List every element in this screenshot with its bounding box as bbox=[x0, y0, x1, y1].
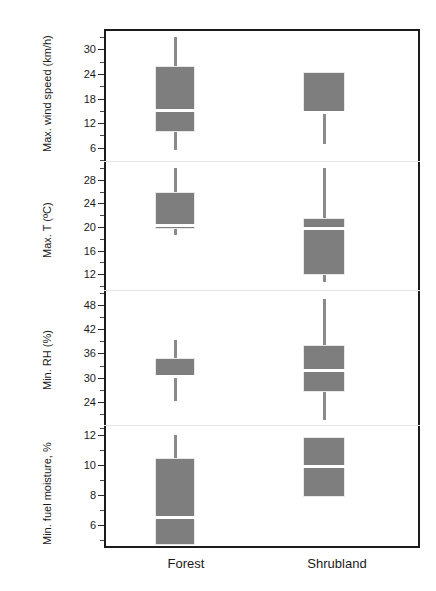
y-axis-tick-label: 24 bbox=[84, 69, 96, 80]
y-axis-tick-label: 30 bbox=[84, 44, 96, 55]
y-axis-title-panel-2: Max. T (ºC) bbox=[42, 202, 53, 258]
y-axis-tick-label: 18 bbox=[84, 94, 96, 105]
y-axis-tick-label: 16 bbox=[84, 246, 96, 257]
panel-separator-2 bbox=[104, 290, 420, 291]
panel-separator-1 bbox=[104, 161, 420, 162]
y-axis-tick-label: 12 bbox=[84, 118, 96, 129]
y-axis-tick-label: 20 bbox=[84, 222, 96, 233]
y-axis-tick-label: 24 bbox=[84, 198, 96, 209]
panel-separator-3 bbox=[104, 425, 420, 426]
x-axis-label-forest: Forest bbox=[146, 557, 226, 570]
y-axis-tick-label: 42 bbox=[84, 324, 96, 335]
y-axis-tick-label: 12 bbox=[84, 269, 96, 280]
x-axis-label-shrubland: Shrubland bbox=[290, 557, 384, 570]
y-axis-title-panel-3: Min. RH (%) bbox=[42, 330, 53, 390]
y-axis-tick-label: 48 bbox=[84, 300, 96, 311]
y-axis-tick-label: 24 bbox=[84, 397, 96, 408]
y-axis-title-panel-1: Max. wind speed (km/h) bbox=[42, 35, 53, 152]
y-axis-tick-label: 12 bbox=[84, 430, 96, 441]
y-axis-title-panel-4: Min. fuel moisture, % bbox=[42, 442, 53, 545]
y-axis-tick-label: 8 bbox=[90, 490, 96, 501]
y-axis-tick-label: 10 bbox=[84, 460, 96, 471]
plot-frame bbox=[104, 29, 420, 548]
y-axis-tick-label: 6 bbox=[90, 143, 96, 154]
boxplot-figure: Max. wind speed (km/h) Max. T (ºC) Min. … bbox=[0, 0, 436, 591]
y-axis-tick-label: 36 bbox=[84, 348, 96, 359]
y-axis-tick-label: 6 bbox=[90, 520, 96, 531]
y-axis-tick-label: 28 bbox=[84, 175, 96, 186]
y-axis-tick-label: 30 bbox=[84, 373, 96, 384]
